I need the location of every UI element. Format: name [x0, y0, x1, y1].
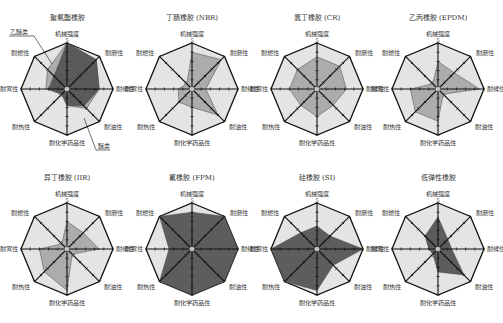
- radar-series-1: [159, 212, 238, 295]
- axis-label: 耐燃性: [136, 49, 154, 57]
- axis-label: 耐油性: [104, 283, 122, 291]
- max-tick-label: 5: [437, 197, 440, 203]
- axis-label: 耐磨性: [230, 49, 248, 57]
- axis-label: 耐候性: [487, 85, 503, 93]
- axis-label: 耐化学药品性: [174, 139, 210, 147]
- axis-label: 耐燃性: [382, 49, 400, 57]
- radar-plot: 05机械强度耐磨性耐候性耐油性耐化学药品性耐热性耐寒性耐燃性: [375, 0, 501, 160]
- radar-chart-2: 丁腈橡胶 (NBR)05机械强度耐磨性耐候性耐油性耐化学药品性耐热性耐寒性耐燃性: [129, 0, 255, 160]
- radar-plot: 05机械强度耐磨性耐候性耐油性耐化学药品性耐热性耐寒性耐燃性: [254, 0, 380, 160]
- axis-label: 耐燃性: [136, 209, 154, 217]
- axis-label: 耐热性: [12, 283, 30, 291]
- radar-chart-7: 硅橡胶 (SI)05机械强度耐磨性耐候性耐油性耐化学药品性耐热性耐寒性耐燃性: [254, 160, 380, 320]
- axis-label: 耐候性: [487, 245, 503, 253]
- radar-plot: 05机械强度耐磨性耐候性耐油性耐化学药品性耐热性耐寒性耐燃性: [129, 0, 255, 160]
- axis-label: 耐化学药品性: [49, 139, 85, 147]
- axis-label: 耐化学药品性: [299, 299, 335, 307]
- max-tick-label: 5: [66, 197, 69, 203]
- axis-label: 耐油性: [354, 123, 372, 131]
- axis-label: 机械强度: [180, 30, 204, 38]
- axis-label: 机械强度: [180, 190, 204, 198]
- axis-label: 耐热性: [137, 283, 155, 291]
- radar-chart-1: 聚氨酯橡胶05机械强度耐磨性耐候性耐油性耐化学药品性耐热性耐寒性耐燃性乙醚类醚类: [4, 0, 130, 160]
- axis-label: 机械强度: [426, 30, 450, 38]
- annotation-ether: 乙醚类: [10, 28, 28, 36]
- annotation-ether-type: 醚类: [98, 142, 110, 150]
- axis-label: 机械强度: [55, 190, 79, 198]
- axis-label: 耐油性: [475, 283, 493, 291]
- axis-label: 耐化学药品性: [420, 299, 456, 307]
- center-tick-label: 0: [191, 86, 194, 92]
- axis-label: 耐燃性: [11, 49, 29, 57]
- radar-chart-grid: 聚氨酯橡胶05机械强度耐磨性耐候性耐油性耐化学药品性耐热性耐寒性耐燃性乙醚类醚类…: [0, 0, 503, 323]
- center-tick-label: 0: [66, 86, 69, 92]
- max-tick-label: 5: [316, 37, 319, 43]
- center-tick-label: 0: [316, 86, 319, 92]
- axis-label: 耐寒性: [371, 85, 389, 93]
- axis-label: 机械强度: [55, 30, 79, 38]
- radar-chart-4: 乙丙橡胶 (EPDM)05机械强度耐磨性耐候性耐油性耐化学药品性耐热性耐寒性耐燃…: [375, 0, 501, 160]
- axis-label: 耐磨性: [105, 49, 123, 57]
- axis-label: 机械强度: [305, 190, 329, 198]
- axis-label: 耐寒性: [125, 85, 143, 93]
- axis-label: 耐油性: [475, 123, 493, 131]
- center-tick-label: 0: [191, 246, 194, 252]
- axis-label: 耐热性: [262, 123, 280, 131]
- axis-label: 耐化学药品性: [420, 139, 456, 147]
- max-tick-label: 5: [66, 37, 69, 43]
- axis-label: 耐磨性: [355, 49, 373, 57]
- axis-label: 耐油性: [104, 123, 122, 131]
- axis-label: 耐燃性: [11, 209, 29, 217]
- axis-label: 耐寒性: [371, 245, 389, 253]
- radar-chart-8: 低弹性橡胶05机械强度耐磨性耐候性耐油性耐化学药品性耐热性耐寒性耐燃性: [375, 160, 501, 320]
- axis-label: 耐化学药品性: [49, 299, 85, 307]
- axis-label: 耐热性: [12, 123, 30, 131]
- axis-label: 耐燃性: [261, 209, 279, 217]
- axis-label: 耐燃性: [382, 209, 400, 217]
- max-tick-label: 5: [316, 197, 319, 203]
- axis-label: 耐热性: [137, 123, 155, 131]
- axis-label: 耐磨性: [230, 209, 248, 217]
- radar-plot: 05机械强度耐磨性耐候性耐油性耐化学药品性耐热性耐寒性耐燃性: [129, 160, 255, 320]
- center-tick-label: 0: [437, 86, 440, 92]
- max-tick-label: 5: [191, 197, 194, 203]
- radar-plot: 05机械强度耐磨性耐候性耐油性耐化学药品性耐热性耐寒性耐燃性乙醚类醚类: [4, 0, 130, 160]
- axis-label: 耐化学药品性: [174, 299, 210, 307]
- axis-label: 耐油性: [229, 123, 247, 131]
- center-tick-label: 0: [437, 246, 440, 252]
- axis-label: 耐热性: [383, 123, 401, 131]
- radar-plot: 05机械强度耐磨性耐候性耐油性耐化学药品性耐热性耐寒性耐燃性: [4, 160, 130, 320]
- axis-label: 耐寒性: [250, 85, 268, 93]
- axis-label: 耐磨性: [105, 209, 123, 217]
- axis-label: 耐寒性: [250, 245, 268, 253]
- axis-label: 耐寒性: [0, 245, 18, 253]
- axis-label: 耐磨性: [355, 209, 373, 217]
- max-tick-label: 5: [191, 37, 194, 43]
- center-tick-label: 0: [66, 246, 69, 252]
- axis-label: 耐化学药品性: [299, 139, 335, 147]
- radar-plot: 05机械强度耐磨性耐候性耐油性耐化学药品性耐热性耐寒性耐燃性: [375, 160, 501, 320]
- axis-label: 机械强度: [426, 190, 450, 198]
- axis-label: 耐燃性: [261, 49, 279, 57]
- axis-label: 耐寒性: [125, 245, 143, 253]
- radar-chart-5: 异丁橡胶 (IIR)05机械强度耐磨性耐候性耐油性耐化学药品性耐热性耐寒性耐燃性: [4, 160, 130, 320]
- axis-label: 耐热性: [262, 283, 280, 291]
- axis-label: 耐磨性: [476, 209, 494, 217]
- radar-chart-3: 氯丁橡胶 (CR)05机械强度耐磨性耐候性耐油性耐化学药品性耐热性耐寒性耐燃性: [254, 0, 380, 160]
- axis-label: 机械强度: [305, 30, 329, 38]
- axis-label: 耐热性: [383, 283, 401, 291]
- axis-label: 耐寒性: [0, 85, 18, 93]
- axis-label: 耐磨性: [476, 49, 494, 57]
- radar-chart-6: 氟橡胶 (FPM)05机械强度耐磨性耐候性耐油性耐化学药品性耐热性耐寒性耐燃性: [129, 160, 255, 320]
- max-tick-label: 5: [437, 37, 440, 43]
- center-tick-label: 0: [316, 246, 319, 252]
- axis-label: 耐油性: [354, 283, 372, 291]
- radar-plot: 05机械强度耐磨性耐候性耐油性耐化学药品性耐热性耐寒性耐燃性: [254, 160, 380, 320]
- axis-label: 耐油性: [229, 283, 247, 291]
